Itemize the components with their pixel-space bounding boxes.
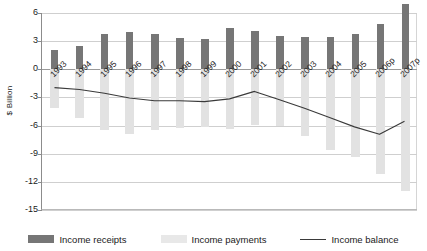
tick-mark--12: [38, 182, 42, 183]
tick-mark--15: [38, 210, 42, 211]
y-tick-label--15: -15: [14, 205, 38, 214]
line-swatch-icon: [300, 239, 326, 240]
legend-item-income-balance: Income balance: [300, 234, 398, 245]
plot-area: 1993199419951996199719981999200020012002…: [41, 13, 417, 210]
legend-item-income-receipts: Income receipts: [28, 234, 126, 245]
payments-bar: [376, 69, 385, 174]
plot-right-border: [416, 13, 417, 209]
payments-bar: [351, 69, 360, 157]
y-tick-label-3: 3: [14, 36, 38, 45]
tick-mark-3: [38, 41, 42, 42]
tick-mark-0: [38, 69, 42, 70]
gridline--15: [42, 210, 417, 211]
y-tick-label-6: 6: [14, 8, 38, 17]
y-tick-label--6: -6: [14, 121, 38, 130]
legend-label-income-balance: Income balance: [331, 234, 398, 245]
tick-mark--6: [38, 126, 42, 127]
tick-mark--9: [38, 154, 42, 155]
legend-item-income-payments: Income payments: [161, 234, 267, 245]
chart-legend: Income receipts Income payments Income b…: [0, 228, 427, 250]
gridline-6: [42, 13, 417, 14]
payments-swatch-icon: [161, 235, 187, 243]
receipts-bar: [402, 4, 410, 70]
legend-label-income-payments: Income payments: [192, 234, 267, 245]
gridline--12: [42, 182, 417, 183]
y-axis-tick-labels: 630-3-6-9-12-15: [14, 0, 38, 251]
tick-mark--3: [38, 97, 42, 98]
income-balance-chart: $ Billion 630-3-6-9-12-15 19931994199519…: [0, 0, 427, 251]
y-axis-title: $ Billion: [5, 66, 14, 136]
payments-bar: [326, 69, 335, 150]
tick-mark-6: [38, 13, 42, 14]
gridline--9: [42, 154, 417, 155]
y-tick-label-0: 0: [14, 64, 38, 73]
payments-bar: [401, 69, 410, 191]
legend-label-income-receipts: Income receipts: [59, 234, 126, 245]
y-tick-label--3: -3: [14, 92, 38, 101]
y-tick-label--9: -9: [14, 149, 38, 158]
receipts-swatch-icon: [28, 235, 54, 243]
y-tick-label--12: -12: [14, 177, 38, 186]
payments-bar: [301, 69, 310, 136]
